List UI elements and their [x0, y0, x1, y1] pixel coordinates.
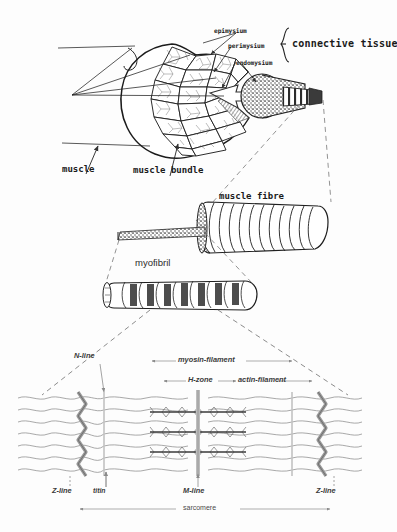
myofibril-strand — [118, 227, 205, 240]
m-line-band — [196, 390, 200, 476]
muscle-structure-illustration — [0, 0, 397, 532]
z-line-zigzag — [78, 392, 326, 476]
connective-tissue-brace — [281, 28, 289, 62]
muscle-fibre-stub — [283, 87, 322, 106]
sarcomere-detail — [18, 361, 362, 509]
diagram-page: epimysium perimysium endomysium connecti… — [0, 0, 397, 532]
